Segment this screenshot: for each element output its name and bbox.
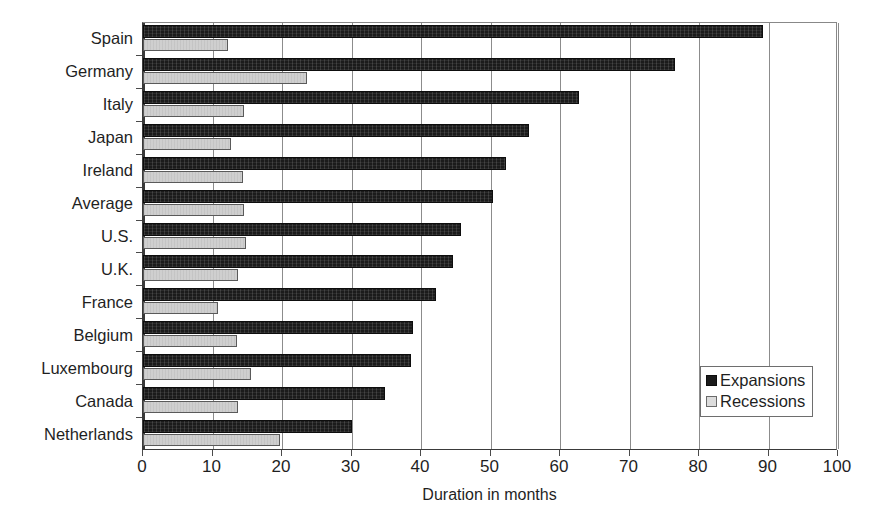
bar-recessions-average xyxy=(143,204,244,216)
bar-recessions-spain xyxy=(143,39,228,51)
x-tick-10 xyxy=(212,450,213,456)
bar-expansions-italy xyxy=(143,91,579,104)
x-tick-label-0: 0 xyxy=(137,458,146,475)
bar-group-average xyxy=(143,188,836,221)
bar-group-u-k- xyxy=(143,253,836,286)
y-axis-label-canada: Canada xyxy=(75,393,133,410)
x-tick-100 xyxy=(837,450,838,456)
recessions-swatch-icon xyxy=(706,396,717,407)
x-tick-label-90: 90 xyxy=(758,458,777,475)
bar-recessions-netherlands xyxy=(143,434,280,446)
x-tick-40 xyxy=(420,450,421,456)
bar-recessions-canada xyxy=(143,401,238,413)
bar-expansions-u-k- xyxy=(143,255,453,268)
x-tick-label-70: 70 xyxy=(619,458,638,475)
y-tick-11 xyxy=(136,384,142,385)
bar-expansions-germany xyxy=(143,58,675,71)
x-tick-0 xyxy=(142,450,143,456)
chart-legend: Expansions Recessions xyxy=(700,366,813,417)
bar-group-spain xyxy=(143,23,836,56)
x-tick-50 xyxy=(490,450,491,456)
bar-recessions-luxembourg xyxy=(143,368,251,380)
x-tick-label-30: 30 xyxy=(341,458,360,475)
bar-expansions-netherlands xyxy=(143,420,352,433)
x-tick-70 xyxy=(629,450,630,456)
y-axis-label-germany: Germany xyxy=(65,63,133,80)
x-tick-90 xyxy=(768,450,769,456)
bar-recessions-italy xyxy=(143,105,244,117)
bar-expansions-canada xyxy=(143,387,385,400)
y-tick-8 xyxy=(136,285,142,286)
legend-label-recessions: Recessions xyxy=(720,393,805,410)
y-tick-12 xyxy=(136,417,142,418)
legend-label-expansions: Expansions xyxy=(720,372,805,389)
y-tick-6 xyxy=(136,220,142,221)
y-axis-label-average: Average xyxy=(72,195,133,212)
x-tick-label-10: 10 xyxy=(202,458,221,475)
y-axis-label-ireland: Ireland xyxy=(83,162,133,179)
y-axis-label-france: France xyxy=(82,294,133,311)
bar-expansions-luxembourg xyxy=(143,354,411,367)
y-axis-label-u-s-: U.S. xyxy=(101,228,133,245)
bar-expansions-japan xyxy=(143,124,529,137)
bar-group-japan xyxy=(143,122,836,155)
gridline-100 xyxy=(838,23,839,449)
bar-chart: SpainGermanyItalyJapanIrelandAverageU.S.… xyxy=(0,0,882,514)
x-tick-20 xyxy=(281,450,282,456)
bar-group-u-s- xyxy=(143,221,836,254)
bar-recessions-ireland xyxy=(143,171,243,183)
x-tick-label-50: 50 xyxy=(480,458,499,475)
y-tick-7 xyxy=(136,252,142,253)
y-tick-4 xyxy=(136,154,142,155)
x-tick-80 xyxy=(698,450,699,456)
bar-expansions-ireland xyxy=(143,157,506,170)
y-tick-5 xyxy=(136,187,142,188)
x-tick-30 xyxy=(351,450,352,456)
y-axis-label-netherlands: Netherlands xyxy=(44,426,133,443)
bar-expansions-u-s- xyxy=(143,223,461,236)
bar-expansions-average xyxy=(143,190,493,203)
x-tick-label-100: 100 xyxy=(823,458,851,475)
bar-recessions-u-k- xyxy=(143,269,238,281)
bar-group-germany xyxy=(143,56,836,89)
x-tick-60 xyxy=(559,450,560,456)
bar-recessions-japan xyxy=(143,138,231,150)
x-tick-label-80: 80 xyxy=(689,458,708,475)
y-axis-label-spain: Spain xyxy=(91,30,133,47)
y-axis-label-japan: Japan xyxy=(88,129,133,146)
bar-expansions-spain xyxy=(143,25,763,38)
legend-item-expansions: Expansions xyxy=(706,370,805,391)
bar-expansions-france xyxy=(143,288,436,301)
y-tick-9 xyxy=(136,318,142,319)
y-tick-3 xyxy=(136,121,142,122)
bar-recessions-u-s- xyxy=(143,237,246,249)
y-tick-10 xyxy=(136,351,142,352)
x-tick-label-20: 20 xyxy=(272,458,291,475)
x-tick-label-40: 40 xyxy=(411,458,430,475)
x-axis-title: Duration in months xyxy=(142,486,837,504)
bar-group-netherlands xyxy=(143,418,836,451)
bar-recessions-germany xyxy=(143,72,307,84)
y-axis-label-luxembourg: Luxembourg xyxy=(41,360,133,377)
bar-recessions-france xyxy=(143,302,218,314)
legend-item-recessions: Recessions xyxy=(706,391,805,412)
bar-group-italy xyxy=(143,89,836,122)
expansions-swatch-icon xyxy=(706,375,717,386)
y-axis-labels: SpainGermanyItalyJapanIrelandAverageU.S.… xyxy=(0,22,133,450)
bar-expansions-belgium xyxy=(143,321,413,334)
bar-group-ireland xyxy=(143,155,836,188)
y-axis-label-belgium: Belgium xyxy=(73,327,133,344)
y-tick-1 xyxy=(136,55,142,56)
bar-group-belgium xyxy=(143,319,836,352)
y-tick-2 xyxy=(136,88,142,89)
x-tick-label-60: 60 xyxy=(550,458,569,475)
y-axis-label-italy: Italy xyxy=(103,96,133,113)
bar-group-france xyxy=(143,286,836,319)
bar-recessions-belgium xyxy=(143,335,237,347)
y-axis-label-u-k-: U.K. xyxy=(101,261,133,278)
